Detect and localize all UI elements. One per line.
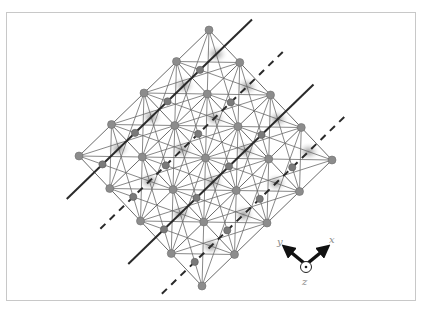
- axis-indicator: [287, 249, 325, 273]
- bond-line: [238, 95, 271, 127]
- small-atom: [195, 130, 202, 137]
- bond-line: [171, 222, 204, 254]
- lattice-atom: [200, 218, 208, 226]
- small-atom: [193, 194, 200, 201]
- lattice-atom: [137, 217, 145, 225]
- lattice-atom: [297, 124, 305, 132]
- bond-line: [267, 192, 300, 224]
- small-atom: [289, 164, 296, 171]
- lattice-atom: [171, 122, 179, 130]
- small-atom: [196, 66, 203, 73]
- lattice-atom: [169, 186, 177, 194]
- small-atom: [191, 258, 198, 265]
- small-atom: [225, 163, 232, 170]
- lattice-atom: [106, 185, 114, 193]
- bond-line: [236, 159, 269, 191]
- bond-line: [202, 255, 235, 287]
- small-atom: [162, 162, 169, 169]
- y-axis-arrow-icon: [287, 249, 304, 263]
- small-atom: [99, 161, 106, 168]
- bond-line: [142, 126, 175, 158]
- lattice-atom: [232, 187, 240, 195]
- small-atom: [131, 129, 138, 136]
- bond-line: [204, 191, 237, 223]
- bond-line: [204, 222, 267, 223]
- lattice-atom: [138, 153, 146, 161]
- y-axis-label: y: [277, 236, 283, 247]
- z-axis-dot-icon: [305, 266, 308, 269]
- bond-line: [300, 160, 333, 192]
- lattice-atom: [265, 155, 273, 163]
- small-atom: [256, 195, 263, 202]
- small-atom: [130, 193, 137, 200]
- small-atom: [160, 226, 167, 233]
- bond-line: [141, 190, 174, 222]
- z-axis-label: z: [302, 276, 307, 287]
- lattice-diagram: [0, 0, 424, 309]
- bond-line: [173, 158, 206, 190]
- bond-line: [175, 94, 208, 126]
- bond-line: [144, 62, 177, 94]
- bond-line: [110, 157, 143, 189]
- bond-line: [206, 127, 239, 159]
- bond-line: [112, 93, 145, 125]
- small-atom: [227, 99, 234, 106]
- bond-line: [269, 128, 302, 160]
- lattice-atom: [231, 251, 239, 259]
- small-atom: [224, 227, 231, 234]
- bond-line: [79, 125, 112, 157]
- lattice-atom: [203, 90, 211, 98]
- lattice-atom: [234, 123, 242, 131]
- lattice-atom: [205, 26, 213, 34]
- bond-line: [177, 30, 210, 62]
- lattice-atom: [173, 58, 181, 66]
- bond-line: [142, 157, 205, 158]
- lattice-atom: [108, 121, 116, 129]
- small-atom: [164, 98, 171, 105]
- lattice-atom: [202, 154, 210, 162]
- bond-line: [235, 223, 268, 255]
- lattice-atom: [296, 188, 304, 196]
- x-axis-arrow-icon: [308, 249, 325, 263]
- lattice-atom: [167, 250, 175, 258]
- lattice-atom: [198, 282, 206, 290]
- lattice-atom: [236, 59, 244, 67]
- lattice-atom: [267, 91, 275, 99]
- x-axis-label: x: [329, 234, 335, 245]
- lattice-atom: [328, 156, 336, 164]
- bond-line: [207, 63, 240, 95]
- lattice-atom: [140, 89, 148, 97]
- small-atom: [258, 131, 265, 138]
- lattice-atom: [263, 219, 271, 227]
- lattice-atom: [75, 152, 83, 160]
